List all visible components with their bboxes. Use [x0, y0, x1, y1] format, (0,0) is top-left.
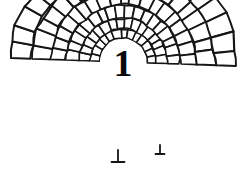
- cell: [115, 5, 125, 18]
- cell: [116, 19, 124, 29]
- center-label-group: 1: [100, 39, 146, 85]
- center-label: 1: [114, 42, 133, 84]
- cell: [166, 55, 180, 64]
- cell: [147, 56, 156, 64]
- cell-cross-section-figure: 1: [0, 0, 246, 171]
- cell: [108, 0, 121, 6]
- cell: [111, 29, 122, 39]
- cell: [214, 51, 236, 66]
- figure-root: 1: [0, 0, 246, 171]
